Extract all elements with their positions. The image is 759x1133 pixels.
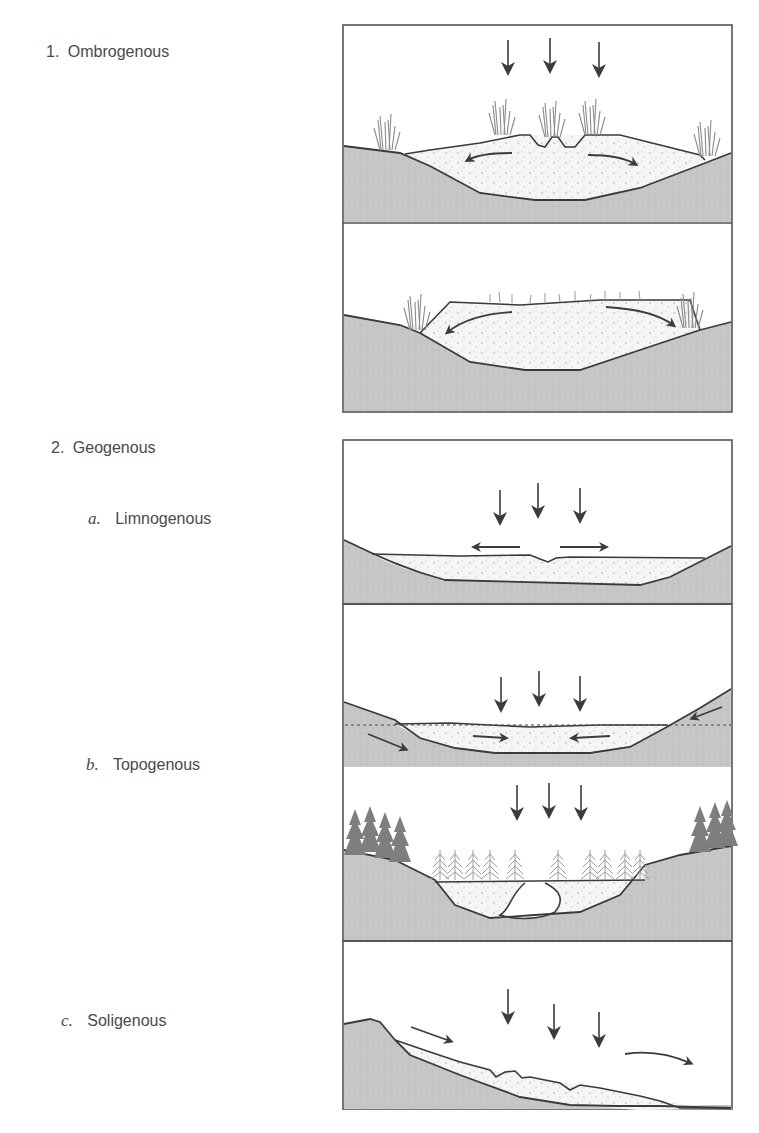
panel-ombrogenous: [343, 25, 732, 412]
wetland-hydrology-diagram: [0, 0, 759, 1133]
figure-caption-cropped: [0, 1126, 759, 1133]
panel-geogenous: [343, 440, 738, 1110]
